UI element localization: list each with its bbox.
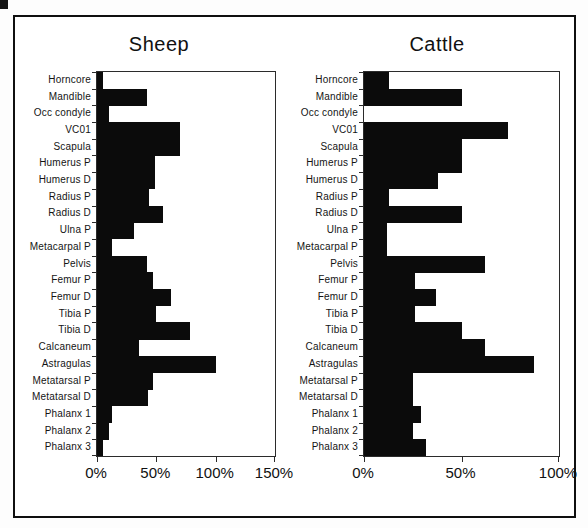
category-label-femur-d: Femur D: [273, 288, 358, 305]
category-label-phalanx-1: Phalanx 1: [273, 405, 358, 422]
bar-humerus-d: [364, 172, 438, 189]
category-label-tibia-p: Tibia P: [273, 305, 358, 322]
category-axis-tick: [359, 423, 364, 424]
category-axis-tick: [359, 155, 364, 156]
category-axis-tick: [359, 89, 364, 90]
bar-calcaneum: [364, 339, 485, 356]
category-label-calcaneum: Calcaneum: [273, 338, 358, 355]
category-label-scapula: Scapula: [273, 138, 358, 155]
category-axis-tick: [359, 306, 364, 307]
category-axis-tick: [359, 172, 364, 173]
category-axis-tick: [359, 256, 364, 257]
category-axis-tick: [359, 389, 364, 390]
x-axis-label-50-: 50%: [445, 464, 475, 481]
category-label-metatarsal-d: Metatarsal D: [273, 388, 358, 405]
category-axis-tick: [359, 222, 364, 223]
bar-scapula: [364, 139, 462, 156]
figure: Sheep HorncoreMandibleOcc condyleVC01Sca…: [0, 0, 588, 528]
category-axis-tick: [359, 72, 364, 73]
category-label-horncore: Horncore: [273, 71, 358, 88]
category-axis-tick: [359, 439, 364, 440]
category-label-tibia-d: Tibia D: [273, 322, 358, 339]
category-axis-cattle: HorncoreMandibleOcc condyleVC01ScapulaHu…: [273, 71, 358, 455]
category-axis-tick: [359, 339, 364, 340]
category-axis-tick: [359, 406, 364, 407]
category-label-occ-condyle: Occ condyle: [273, 104, 358, 121]
chart-cattle: Cattle HorncoreMandibleOcc condyleVC01Sc…: [0, 0, 588, 528]
category-label-astragulas: Astragulas: [273, 355, 358, 372]
bar-horncore: [364, 72, 389, 89]
category-label-metatarsal-p: Metatarsal P: [273, 372, 358, 389]
chart-title-cattle: Cattle: [409, 33, 464, 56]
bar-femur-p: [364, 272, 415, 289]
category-axis-tick: [359, 122, 364, 123]
bar-radius-d: [364, 206, 462, 223]
bar-mandible: [364, 89, 462, 106]
category-label-ulna-p: Ulna P: [273, 221, 358, 238]
bar-metatarsal-p: [364, 373, 413, 390]
category-axis-tick: [359, 105, 364, 106]
bar-radius-p: [364, 189, 389, 206]
bar-tibia-p: [364, 306, 415, 323]
x-axis-tick: [558, 457, 559, 462]
x-axis-label-100-: 100%: [539, 464, 577, 481]
bar-phalanx-3: [364, 439, 426, 456]
x-axis-label-0-: 0%: [352, 464, 374, 481]
category-axis-tick: [359, 373, 364, 374]
bar-pelvis: [364, 256, 485, 273]
bar-phalanx-1: [364, 406, 421, 423]
plot-area-cattle: [363, 71, 560, 457]
category-axis-tick: [359, 322, 364, 323]
bar-vc01: [364, 122, 508, 139]
category-axis-tick: [359, 272, 364, 273]
bar-astragulas: [364, 356, 534, 373]
bar-femur-d: [364, 289, 436, 306]
bar-ulna-p: [364, 222, 387, 239]
category-axis-tick: [359, 356, 364, 357]
category-label-femur-p: Femur P: [273, 271, 358, 288]
category-label-humerus-d: Humerus D: [273, 171, 358, 188]
category-label-metacarpal-p: Metacarpal P: [273, 238, 358, 255]
category-axis-tick: [359, 206, 364, 207]
bar-metacarpal-p: [364, 239, 387, 256]
bar-metatarsal-d: [364, 389, 413, 406]
category-axis-tick: [359, 289, 364, 290]
category-label-phalanx-3: Phalanx 3: [273, 438, 358, 455]
bar-tibia-d: [364, 322, 462, 339]
category-label-phalanx-2: Phalanx 2: [273, 422, 358, 439]
bar-humerus-p: [364, 155, 462, 172]
category-label-vc01: VC01: [273, 121, 358, 138]
x-axis-tick: [364, 457, 365, 462]
category-axis-tick: [359, 189, 364, 190]
category-label-radius-p: Radius P: [273, 188, 358, 205]
category-label-humerus-p: Humerus P: [273, 155, 358, 172]
category-label-pelvis: Pelvis: [273, 255, 358, 272]
bar-phalanx-2: [364, 423, 413, 440]
x-axis-tick: [462, 457, 463, 462]
category-axis-tick: [359, 139, 364, 140]
category-axis-tick: [359, 239, 364, 240]
category-axis-tick: [359, 455, 364, 456]
category-label-radius-d: Radius D: [273, 205, 358, 222]
category-label-mandible: Mandible: [273, 88, 358, 105]
